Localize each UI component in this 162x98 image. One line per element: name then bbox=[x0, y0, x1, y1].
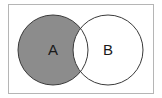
venn-diagram: A B bbox=[0, 0, 162, 98]
set-a-label: A bbox=[48, 41, 58, 58]
set-b-label: B bbox=[103, 41, 113, 58]
